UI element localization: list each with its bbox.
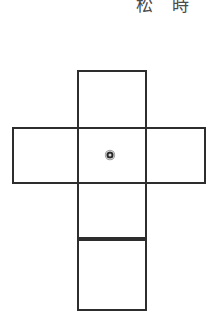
- cube-net-figure: [0, 0, 215, 330]
- net-face-left: [13, 128, 78, 183]
- center-point-marker: [105, 150, 115, 160]
- net-face-bottom: [78, 240, 146, 310]
- cube-net-svg: [0, 0, 215, 330]
- net-face-lower-middle: [78, 183, 146, 238]
- scanned-page: 松 時: [0, 0, 215, 330]
- net-face-top: [78, 71, 146, 128]
- net-face-right: [146, 128, 205, 183]
